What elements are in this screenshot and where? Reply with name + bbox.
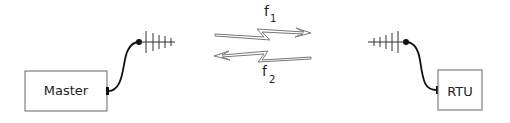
uplink-subscript: 1: [270, 13, 276, 24]
master-label: Master: [44, 83, 89, 98]
rtu-antenna-icon: [368, 31, 406, 53]
downlink-label: f: [262, 63, 268, 79]
downlink-subscript: 2: [269, 74, 275, 85]
master-node: Master: [25, 71, 107, 111]
uplink-arrow: [215, 28, 311, 40]
rtu-label: RTU: [447, 84, 473, 99]
diagram-canvas: Master f 1 f 2 RTU: [0, 0, 510, 123]
rtu-node: RTU: [438, 70, 482, 110]
downlink-arrow: [214, 51, 311, 62]
rtu-cable: [406, 42, 437, 90]
master-antenna-icon: [139, 31, 175, 53]
master-cable: [108, 42, 139, 91]
master-connector: [106, 87, 109, 95]
radio-link-diagram: Master f 1 f 2 RTU: [0, 0, 510, 123]
